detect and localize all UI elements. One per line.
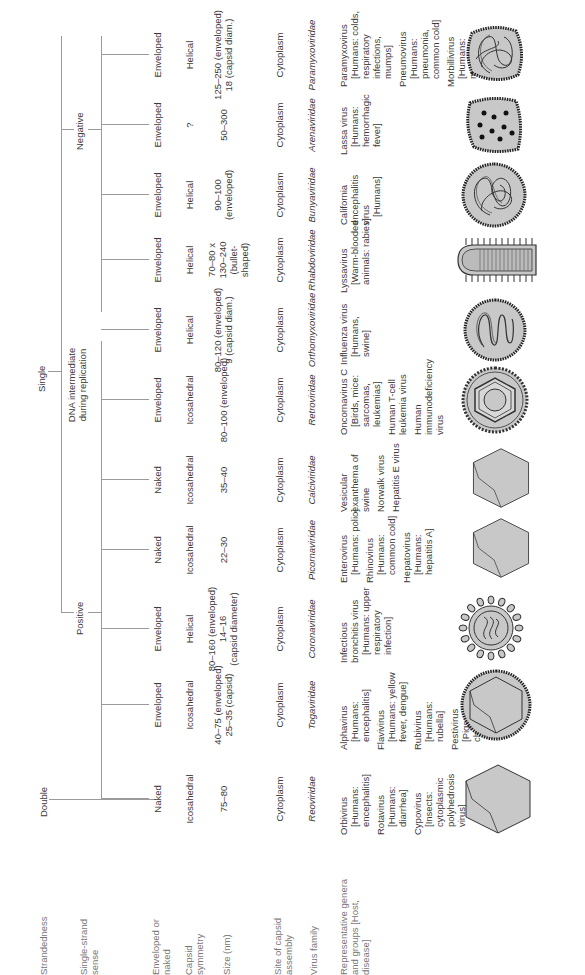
genus-name: Paramyxovirus	[338, 24, 349, 87]
negative-stem-down	[88, 129, 102, 130]
double-branch-vertical	[49, 799, 154, 800]
genera-list: California encephalitis virus[Humans]	[338, 159, 386, 225]
retro-crossbar	[101, 341, 102, 391]
genus-host: [Humans: upper respiratory infection]	[360, 585, 393, 663]
drop-bunyaviridae	[101, 194, 149, 195]
size-value-3: (capsid diameter)	[228, 584, 239, 674]
envelope-value: Enveloped	[152, 95, 163, 155]
genera-list: Lassa virus[Humans: hemorrhagic fever]	[338, 89, 386, 155]
drop-picornaviridae	[101, 549, 149, 550]
site-value: Cytoplasm	[274, 520, 285, 580]
envelope-value: Enveloped	[152, 165, 163, 225]
retrovirus-icon	[460, 365, 530, 435]
tangled-nucleocapsid-icon	[462, 21, 528, 87]
genus-name: Cypovirus	[412, 793, 423, 835]
genus-host: [Humans: hemorrhagic fever]	[349, 89, 382, 155]
genus-name: Oncornavirus C	[338, 369, 349, 435]
drop-retroviridae	[101, 399, 149, 400]
site-value: Cytoplasm	[274, 599, 285, 659]
size-value: 75–80	[218, 769, 229, 829]
symmetry-value: Icosahedral	[184, 769, 195, 829]
symmetry-value: Icosahedral	[184, 520, 195, 580]
drop-coronaviridae	[101, 628, 149, 629]
genus-host: [Humans: pneumonia, common cold]	[408, 3, 441, 87]
negative-crossbar	[101, 36, 102, 312]
size-value: 125–250 (enveloped)	[212, 7, 223, 103]
row-label-site: Site of capsid assembly	[272, 895, 294, 975]
symmetry-value: Icosahedral	[184, 370, 195, 430]
genus-name: Human immunodeficiency virus	[412, 359, 445, 435]
site-value: Cytoplasm	[274, 769, 285, 829]
family-name: Rhabdoviridae	[306, 225, 317, 295]
family-name: Reoviridae	[306, 769, 317, 829]
envelope-value: Naked	[152, 520, 163, 580]
coiled-nucleocapsid-icon	[462, 297, 528, 363]
site-value: Cytoplasm	[274, 95, 285, 155]
row-label-symmetry: Capsid symmetry	[183, 905, 205, 975]
family-name: Coronaviridae	[306, 599, 317, 659]
size-value: 80–120 (enveloped)	[212, 285, 223, 375]
envelope-value: Enveloped	[152, 370, 163, 430]
drop-reoviridae	[101, 798, 149, 799]
genus-host: [Warm-blooded animals: rabies]	[349, 217, 371, 293]
genera-list: Vesicular exanthema of swine Norwalk vir…	[338, 440, 405, 512]
row-label-sense: Single-strand sense	[78, 895, 100, 975]
tree-label-dna-intermediate: DNA intermediate during replication	[66, 332, 88, 438]
genus-name: Morbillivirus	[445, 37, 456, 87]
symmetry-value: Helical	[184, 165, 195, 225]
single-stem	[48, 371, 62, 372]
genera-list: Orbivirus[Humans: encephalitis] Rotaviru…	[338, 755, 471, 835]
envelope-value: Enveloped	[152, 25, 163, 85]
icosahedron-icon	[470, 447, 532, 509]
row-label-strandedness: Strandedness	[38, 855, 49, 975]
genus-name: Vesicular exanthema of swine	[338, 454, 371, 512]
site-value: Cytoplasm	[274, 675, 285, 735]
envelope-value: Enveloped	[152, 599, 163, 659]
size-value-3: (bullet-	[228, 230, 239, 290]
size-value-2: 18 (capsid diam.)	[223, 7, 234, 103]
corona-icon	[458, 595, 524, 661]
symmetry-value: ?	[184, 95, 195, 155]
size-value-2: 14–16	[217, 584, 228, 674]
size-value-4: shaped)	[239, 230, 250, 290]
envelope-value: Enveloped	[152, 675, 163, 735]
genus-host: [Birds, mice: sarcomas, leukemias]	[349, 353, 382, 435]
genus-host: [Humans: yellow fever, dengue]	[386, 670, 408, 750]
genus-host: [Humans: diarrhea]	[386, 755, 408, 835]
tree-label-positive: Positive	[74, 599, 85, 638]
family-name: Paramyxoviridae	[306, 15, 317, 95]
genera-list: Enterovirus[Humans: polio] Rhinovirus[Hu…	[338, 505, 438, 583]
size-value-2: (enveloped)	[223, 165, 234, 225]
site-value: Cytoplasm	[274, 370, 285, 430]
rna-virus-classification-diagram: Strandedness Single-strand sense Envelop…	[0, 0, 585, 975]
tree-label-negative: Negative	[74, 110, 85, 154]
genus-name: Hepatovirus	[401, 532, 412, 583]
drop-arenaviridae	[101, 124, 149, 125]
drop-togaviridae	[101, 704, 149, 705]
positive-crossbar	[101, 391, 102, 799]
genus-name: California encephalitis virus	[338, 175, 371, 225]
enveloped-icosahedron-icon	[458, 667, 534, 743]
positive-stem-down	[88, 612, 102, 613]
drop-calciviridae	[101, 479, 149, 480]
site-value: Cytoplasm	[274, 25, 285, 85]
genera-list: Lyssavirus[Warm-blooded animals: rabies]	[338, 217, 375, 293]
genus-name: Influenza virus	[338, 304, 349, 365]
genera-list: Oncornavirus C[Birds, mice: sarcomas, le…	[338, 353, 449, 435]
genus-name: Flavivirus	[375, 710, 386, 750]
envelope-value: Enveloped	[152, 300, 163, 360]
genus-name: Rotavirus	[375, 795, 386, 835]
site-value: Cytoplasm	[274, 230, 285, 290]
family-name: Calciviridae	[306, 450, 317, 510]
family-name: Retroviridae	[306, 370, 317, 430]
genus-host: [Humans]	[371, 159, 382, 225]
size-value-2: 9 (capsid diam.)	[223, 285, 234, 375]
symmetry-value: Helical	[184, 599, 195, 659]
genus-host: [Insects: cytoplasmic polyhedrosis virus…	[423, 755, 467, 835]
envelope-value: Enveloped	[152, 230, 163, 290]
size-value-2: 130–240	[217, 230, 228, 290]
granular-virion-icon	[462, 93, 526, 157]
genus-name: Alphavirus	[338, 706, 349, 750]
drop-rhabdoviridae	[101, 259, 149, 260]
size-value: 80–160 (enveloped)	[206, 584, 217, 674]
